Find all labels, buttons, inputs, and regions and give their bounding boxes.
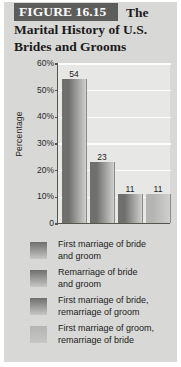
bar-value-label: 23 xyxy=(90,152,114,162)
legend-label-line-1: First marriage of groom, xyxy=(58,323,176,335)
y-axis-tick-label: 50% xyxy=(26,85,54,95)
bar xyxy=(118,194,143,223)
figure-title-block: FIGURE 16.15 The Marital History of U.S.… xyxy=(4,2,177,58)
legend-label: Remarriage of brideand groom xyxy=(58,267,176,290)
y-axis-tick-label: 10% xyxy=(26,191,54,201)
legend-label-line-2: and groom xyxy=(58,279,176,291)
figure-number-label: FIGURE 16.15 xyxy=(19,4,106,20)
legend-swatch xyxy=(30,326,47,343)
bar xyxy=(146,194,171,223)
legend-swatch xyxy=(30,242,47,259)
bar-value-label: 11 xyxy=(118,184,142,194)
bar xyxy=(90,162,115,223)
bar xyxy=(62,79,87,223)
bar-chart: Percentage 60%50%40%30%20%10%0 54231111 xyxy=(4,59,177,234)
y-axis-tick-label: 40% xyxy=(26,111,54,121)
legend-label-line-2: remarriage of groom xyxy=(58,307,176,319)
legend-label-line-1: First marriage of bride xyxy=(58,239,176,251)
y-axis-tick-label: 0 xyxy=(26,218,54,228)
legend-swatch xyxy=(30,270,47,287)
legend-label-line-2: and groom xyxy=(58,251,176,263)
legend-label: First marriage of brideand groom xyxy=(58,239,176,262)
legend-label: First marriage of groom,remarriage of br… xyxy=(58,323,176,346)
bar-value-label: 54 xyxy=(62,69,86,79)
legend-swatch xyxy=(30,298,47,315)
figure-title-line-3: Brides and Grooms xyxy=(14,39,126,55)
legend-label-line-1: First marriage of bride, xyxy=(58,295,176,307)
figure-panel: FIGURE 16.15 The Marital History of U.S.… xyxy=(4,2,177,362)
y-axis-tick-label: 30% xyxy=(26,138,54,148)
y-axis-title: Percentage xyxy=(14,99,24,169)
plot-area: 54231111 xyxy=(57,64,170,224)
figure-title-line-2: Marital History of U.S. xyxy=(14,22,147,38)
legend-label: First marriage of bride,remarriage of gr… xyxy=(58,295,176,318)
gridline xyxy=(58,63,171,65)
legend-label-line-2: remarriage of bride xyxy=(58,335,176,347)
y-axis-tick-labels: 60%50%40%30%20%10%0 xyxy=(24,59,54,229)
y-axis-tick-mark xyxy=(55,223,58,224)
y-axis-tick-label: 20% xyxy=(26,165,54,175)
legend-label-line-1: Remarriage of bride xyxy=(58,267,176,279)
figure-title-line-1: The xyxy=(126,5,149,21)
chart-legend: First marriage of brideand groomRemarria… xyxy=(4,240,177,360)
bar-value-label: 11 xyxy=(146,184,170,194)
y-axis-tick-label: 60% xyxy=(26,58,54,68)
